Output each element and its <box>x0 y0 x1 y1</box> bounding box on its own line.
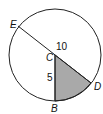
label-10: 10 <box>56 41 68 52</box>
label-e: E <box>10 19 17 30</box>
label-d: D <box>94 81 101 92</box>
label-b: B <box>51 103 58 114</box>
label-5: 5 <box>47 72 53 83</box>
shaded-sector-bcd <box>55 55 91 101</box>
circle-diagram: E 10 C 5 D B <box>0 0 103 114</box>
label-c: C <box>46 52 54 63</box>
